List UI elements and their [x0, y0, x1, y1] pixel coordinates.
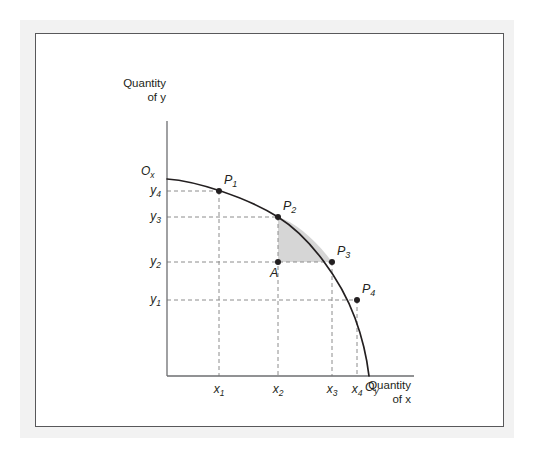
point-marker-p2: [275, 214, 281, 220]
point-label-p4: P4: [362, 282, 375, 297]
y1-sub: 1: [156, 298, 161, 308]
x-tick-label-x1: x1: [206, 382, 232, 396]
y-tick-label-y2: y2: [135, 254, 161, 268]
point-marker-a: [275, 259, 281, 265]
x3-sub: 3: [333, 388, 338, 398]
x2-sub: 2: [279, 388, 284, 398]
point-marker-p1: [216, 188, 222, 194]
y2-sub: 2: [156, 260, 161, 270]
y-tick-label-y4: y4: [135, 183, 161, 197]
x-tick-label-x4: x4: [344, 382, 370, 396]
p2-sub: 2: [291, 205, 296, 215]
point-label-a: A: [270, 266, 278, 281]
x2-base: x: [273, 382, 279, 396]
origin-x-sub: x: [150, 170, 154, 180]
y-tick-label-y1: y1: [135, 292, 161, 306]
y-tick-label-y3: y3: [135, 209, 161, 223]
point-label-p3: P3: [337, 244, 350, 259]
transformation-curve: [167, 179, 369, 376]
x1-base: x: [214, 382, 220, 396]
point-label-p1: P1: [224, 173, 237, 188]
origin-x-label: Ox: [141, 164, 155, 178]
point-marker-p4: [354, 297, 360, 303]
p1-sub: 1: [232, 179, 237, 189]
y3-sub: 3: [156, 215, 161, 225]
p3-sub: 3: [345, 250, 350, 260]
x1-sub: 1: [220, 388, 225, 398]
point-label-p2: P2: [283, 199, 296, 214]
dashed-guide-lines: [167, 191, 357, 376]
x-tick-label-x3: x3: [319, 382, 345, 396]
origin-x-base: O: [141, 164, 150, 178]
y-axis-title: Quantity of y: [86, 77, 166, 104]
origin-y-sub: y: [374, 386, 378, 396]
x4-base: x: [352, 382, 358, 396]
p4-sub: 4: [370, 288, 375, 298]
x4-sub: 4: [358, 388, 363, 398]
figure-card: Quantity of y Quantity of x Ox Oy y4 y3 …: [35, 33, 504, 427]
y4-sub: 4: [156, 189, 161, 199]
x3-base: x: [327, 382, 333, 396]
chart-surface: Quantity of y Quantity of x Ox Oy y4 y3 …: [36, 34, 505, 428]
figure-outer-panel: Quantity of y Quantity of x Ox Oy y4 y3 …: [20, 20, 514, 438]
x-tick-label-x2: x2: [265, 382, 291, 396]
point-marker-p3: [329, 259, 335, 265]
